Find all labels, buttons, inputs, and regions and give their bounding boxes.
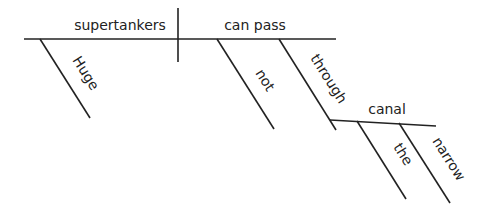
modifier-word-huge: Huge — [69, 53, 102, 93]
modifier-word-not: not — [252, 66, 278, 94]
modifier-word-narrow: narrow — [429, 134, 468, 183]
sentence-diagram: supertankers can pass Huge not through c… — [0, 0, 479, 218]
predicate-word: can pass — [224, 17, 286, 33]
object-word-canal: canal — [368, 101, 406, 117]
object-line-canal — [330, 120, 436, 126]
preposition-word-through: through — [307, 51, 350, 106]
subject-word: supertankers — [74, 17, 166, 33]
